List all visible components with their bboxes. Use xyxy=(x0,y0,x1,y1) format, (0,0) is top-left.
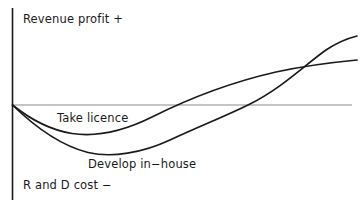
series-label-develop-in-house: Develop in−house xyxy=(88,158,196,171)
series-label-take-licence: Take licence xyxy=(57,112,128,125)
y-axis-top-label: Revenue profit + xyxy=(23,13,123,26)
chart-plot-area xyxy=(0,0,362,203)
curve-develop-in-house xyxy=(13,36,358,155)
revenue-vs-cost-chart: Revenue profit + Take licence Develop in… xyxy=(0,0,362,203)
y-axis-bottom-label: R and D cost − xyxy=(23,179,112,192)
